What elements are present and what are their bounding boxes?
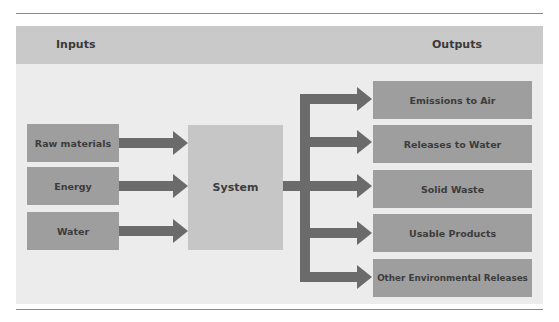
output-box-usable-products: Usable Products xyxy=(373,214,532,252)
arrow-icon xyxy=(300,221,372,245)
output-box-other-environmental-releases: Other Environmental Releases xyxy=(373,259,532,297)
arrow-icon xyxy=(300,87,372,111)
output-box-releases-to-water: Releases to Water xyxy=(373,125,532,163)
system-box: System xyxy=(188,125,283,250)
arrow-icon xyxy=(119,174,188,198)
arrow-icon xyxy=(300,265,372,289)
arrow-icon xyxy=(300,130,372,154)
output-box-emissions-to-air: Emissions to Air xyxy=(373,81,532,119)
input-box-raw-materials: Raw materials xyxy=(27,124,119,162)
arrow-icon xyxy=(119,131,188,155)
bottom-rule xyxy=(16,309,543,310)
input-box-water: Water xyxy=(27,212,119,250)
arrow-icon xyxy=(305,174,372,198)
output-box-solid-waste: Solid Waste xyxy=(373,170,532,208)
arrow-icon xyxy=(119,219,188,243)
input-box-energy: Energy xyxy=(27,167,119,205)
